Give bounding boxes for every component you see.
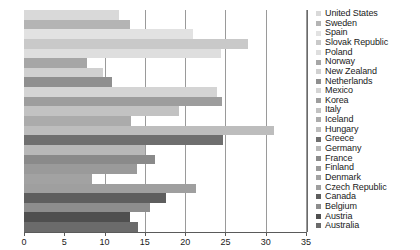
bar-row (24, 126, 306, 136)
bar-row (24, 106, 306, 116)
legend-item-belgium[interactable]: Belgium (316, 202, 420, 212)
bar-sweden (24, 20, 130, 30)
legend-swatch-icon (316, 117, 321, 122)
legend-item-label: New Zealand (325, 67, 377, 77)
x-tick-label-15: 15 (140, 237, 150, 248)
legend-swatch-icon (316, 11, 321, 16)
bar-czech-republic (24, 184, 196, 194)
legend-swatch-icon (316, 127, 321, 132)
bar-greece (24, 135, 223, 145)
legend-swatch-icon (316, 79, 321, 84)
legend-swatch-icon (316, 214, 321, 219)
bar-poland (24, 49, 221, 59)
bar-row (24, 68, 306, 78)
legend-swatch-icon (316, 204, 321, 209)
bar-row (24, 222, 306, 232)
bar-row (24, 49, 306, 59)
bar-hungary (24, 126, 274, 136)
legend-swatch-icon (316, 60, 321, 65)
bar-belgium (24, 203, 150, 213)
bar-slovak-republic (24, 39, 248, 49)
bar-korea (24, 97, 222, 107)
x-tick-label-25: 25 (220, 237, 230, 248)
bar-mexico (24, 87, 217, 97)
legend-swatch-icon (316, 185, 321, 190)
x-tick-20 (185, 232, 186, 236)
legend-swatch-icon (316, 88, 321, 93)
x-tick-label-0: 0 (21, 237, 26, 248)
bar-denmark (24, 174, 92, 184)
x-tick-15 (145, 232, 146, 236)
x-tick-label-5: 5 (62, 237, 67, 248)
bar-row (24, 10, 306, 20)
bar-australia (24, 222, 138, 232)
bar-new-zealand (24, 68, 103, 78)
x-tick-35 (306, 232, 307, 236)
bar-row (24, 164, 306, 174)
x-tick-label-35: 35 (301, 237, 311, 248)
x-tick-label-10: 10 (100, 237, 110, 248)
bar-row (24, 135, 306, 145)
x-tick-5 (64, 232, 65, 236)
legend-item-australia[interactable]: Australia (316, 221, 420, 231)
legend-swatch-icon (316, 137, 321, 142)
bar-netherlands (24, 77, 112, 87)
bar-row (24, 97, 306, 107)
legend-swatch-icon (316, 166, 321, 171)
bar-row (24, 174, 306, 184)
bar-finland (24, 164, 137, 174)
chart-legend: United StatesSwedenSpainSlovak RepublicP… (316, 9, 420, 231)
bar-row (24, 87, 306, 97)
bar-spain (24, 29, 193, 39)
legend-swatch-icon (316, 175, 321, 180)
bar-row (24, 20, 306, 30)
x-tick-25 (225, 232, 226, 236)
legend-swatch-icon (316, 146, 321, 151)
bar-row (24, 39, 306, 49)
bar-germany (24, 145, 145, 155)
bar-row (24, 212, 306, 222)
bar-row (24, 203, 306, 213)
bar-row (24, 116, 306, 126)
bar-row (24, 155, 306, 165)
x-tick-label-30: 30 (261, 237, 271, 248)
bar-norway (24, 58, 87, 68)
x-tick-label-20: 20 (180, 237, 190, 248)
legend-swatch-icon (316, 223, 321, 228)
x-tick-30 (266, 232, 267, 236)
bar-row (24, 58, 306, 68)
bar-united-states (24, 10, 119, 20)
bar-row (24, 29, 306, 39)
bar-row (24, 184, 306, 194)
bar-canada (24, 193, 166, 203)
bar-iceland (24, 116, 131, 126)
bar-row (24, 77, 306, 87)
plot-area (24, 10, 306, 232)
legend-item-label: Belgium (325, 202, 357, 212)
bar-austria (24, 212, 130, 222)
legend-swatch-icon (316, 21, 321, 26)
bar-row (24, 145, 306, 155)
bar-series (24, 10, 306, 232)
legend-swatch-icon (316, 40, 321, 45)
legend-divider (307, 10, 308, 232)
x-tick-10 (105, 232, 106, 236)
legend-swatch-icon (316, 69, 321, 74)
x-tick-0 (24, 232, 25, 236)
x-axis-line (24, 232, 307, 233)
bar-row (24, 193, 306, 203)
legend-swatch-icon (316, 108, 321, 113)
legend-swatch-icon (316, 98, 321, 103)
bar-italy (24, 106, 179, 116)
legend-item-label: Australia (325, 221, 359, 231)
legend-swatch-icon (316, 50, 321, 55)
legend-swatch-icon (316, 194, 321, 199)
bar-france (24, 155, 155, 165)
legend-swatch-icon (316, 31, 321, 36)
legend-swatch-icon (316, 156, 321, 161)
bar-chart: 05101520253035 United StatesSwedenSpainS… (0, 0, 420, 250)
